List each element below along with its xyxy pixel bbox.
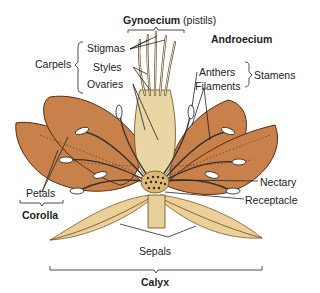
stamens-label: Stamens (254, 69, 295, 81)
styles-label: Styles (93, 61, 122, 73)
ovaries-label: Ovaries (87, 78, 123, 90)
petals-label: Petals (26, 187, 55, 199)
filaments-label: Filaments (195, 80, 241, 92)
sepals-label: Sepals (139, 245, 171, 257)
gynoecium-label: Gynoecium (pistils) (123, 14, 216, 26)
stigmas-label: Stigmas (87, 42, 125, 54)
carpels-label: Carpels (35, 58, 71, 70)
calyx-label: Calyx (141, 276, 169, 288)
receptacle-label: Receptacle (245, 194, 298, 206)
nectary-label: Nectary (260, 176, 296, 188)
receptacle-stalk (148, 195, 165, 228)
anthers-label: Anthers (199, 66, 235, 78)
corolla-label: Corolla (22, 209, 58, 221)
androecium-label: Androecium (211, 33, 272, 45)
